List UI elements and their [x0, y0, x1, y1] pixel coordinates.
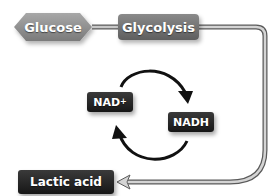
lactic-acid-node: Lactic acid: [18, 170, 114, 194]
cycle-arrowhead-bottom-icon: [112, 125, 127, 139]
nad-plus-node: NAD+: [87, 92, 133, 112]
glucose-label: Glucose: [24, 20, 82, 35]
cycle-arrow-top: [121, 71, 185, 92]
nadh-label: NADH: [173, 116, 209, 129]
cycle-arrowhead-top-icon: [178, 91, 193, 104]
nad-plus-label: NAD: [93, 96, 120, 109]
glycolysis-node: Glycolysis: [118, 14, 199, 40]
cycle-arrow-bottom: [119, 133, 187, 159]
nadh-node: NADH: [168, 112, 214, 132]
glycolysis-label: Glycolysis: [122, 20, 195, 35]
glycolysis-lactic-connector: [117, 27, 265, 189]
glucose-node: Glucose: [22, 14, 84, 40]
lactic-acid-label: Lactic acid: [30, 175, 102, 189]
